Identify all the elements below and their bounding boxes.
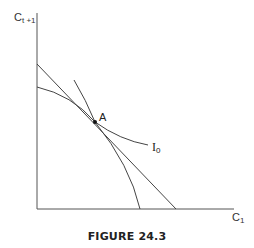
production-frontier-curve [74, 80, 140, 209]
y-axis-label: Ct +1 [14, 12, 36, 25]
indifference-curve-label: I0 [152, 141, 160, 155]
x-axis-label-subscript: 1 [240, 216, 244, 225]
point-a-label: A [99, 112, 106, 123]
diagram-canvas [0, 0, 254, 248]
point-a-marker [93, 120, 97, 124]
x-axis-label-text: C [232, 211, 240, 223]
figure-caption: FIGURE 24.3 [0, 230, 254, 243]
y-axis-label-text: C [14, 11, 22, 23]
x-axis-label: C1 [232, 212, 244, 225]
indifference-curve-label-subscript: 0 [156, 146, 160, 155]
y-axis-label-subscript: t +1 [22, 16, 36, 25]
